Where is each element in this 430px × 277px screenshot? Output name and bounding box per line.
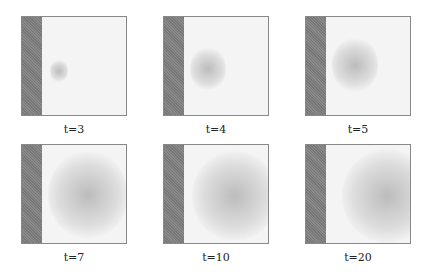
simulation-panel [21, 144, 127, 244]
simulation-panel [163, 16, 269, 116]
particle-cloud [50, 59, 68, 83]
panel-label: t=7 [21, 251, 127, 264]
simulation-panel [305, 16, 411, 116]
simulation-panel [305, 144, 411, 244]
particle-cloud [332, 37, 378, 93]
wall-region [164, 145, 184, 243]
particle-cloud [190, 47, 226, 91]
panel-label: t=3 [21, 123, 127, 136]
wall-region [306, 17, 326, 115]
particle-cloud [342, 149, 411, 243]
particle-cloud [192, 151, 269, 241]
panel-label: t=20 [305, 251, 411, 264]
panel-label: t=5 [305, 123, 411, 136]
wall-region [22, 17, 42, 115]
particle-cloud [48, 151, 127, 239]
wall-region [164, 17, 184, 115]
simulation-panel [21, 16, 127, 116]
wall-region [22, 145, 42, 243]
simulation-panel [163, 144, 269, 244]
wall-region [306, 145, 326, 243]
panel-label: t=10 [163, 251, 269, 264]
panel-label: t=4 [163, 123, 269, 136]
